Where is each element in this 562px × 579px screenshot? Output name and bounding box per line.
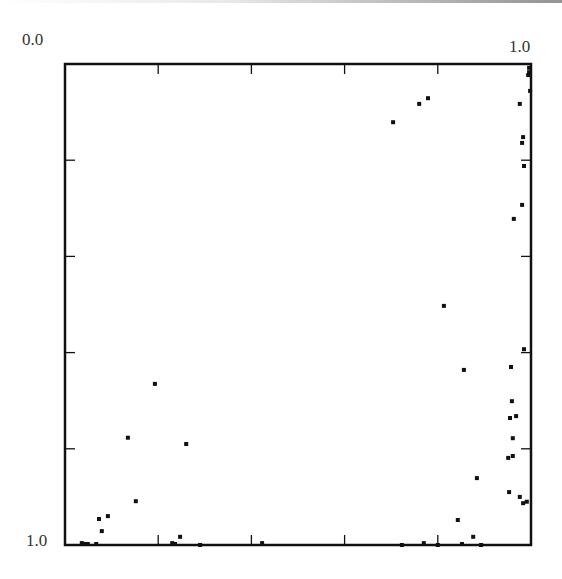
data-point: [509, 365, 513, 369]
data-point: [391, 120, 395, 124]
data-point: [471, 535, 475, 539]
data-point: [526, 73, 530, 77]
data-point: [520, 203, 524, 207]
data-point: [521, 501, 525, 505]
data-point: [417, 102, 421, 106]
plot-frame: [65, 64, 531, 545]
data-point: [512, 217, 516, 221]
data-point: [462, 368, 466, 372]
data-point: [518, 102, 522, 106]
data-point: [100, 529, 104, 533]
data-point: [520, 141, 524, 145]
data-point: [507, 490, 511, 494]
data-point: [126, 436, 130, 440]
data-point: [178, 535, 182, 539]
data-point: [153, 382, 157, 386]
data-point: [521, 135, 525, 139]
axis-ticks: [65, 64, 531, 545]
data-point: [514, 414, 518, 418]
data-point: [522, 347, 526, 351]
data-points: [80, 66, 532, 547]
data-point: [508, 416, 512, 420]
data-point: [511, 454, 515, 458]
scatter-plot: [0, 0, 562, 579]
data-point: [510, 399, 514, 403]
data-point: [106, 514, 110, 518]
data-point: [511, 436, 515, 440]
data-point: [518, 495, 522, 499]
data-point: [525, 500, 529, 504]
data-point: [475, 476, 479, 480]
data-point: [97, 517, 101, 521]
data-point: [184, 442, 188, 446]
data-point: [134, 499, 138, 503]
data-point: [506, 456, 510, 460]
data-point: [522, 164, 526, 168]
data-point: [442, 304, 446, 308]
data-point: [426, 96, 430, 100]
data-point: [456, 518, 460, 522]
